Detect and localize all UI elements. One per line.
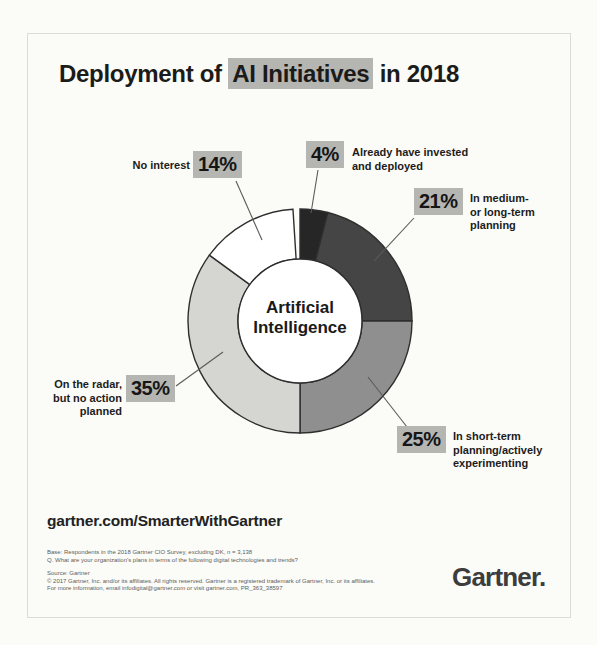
- pct-badge-deployed: 4%: [306, 141, 344, 168]
- leader-line-deployed: [311, 170, 318, 213]
- pct-badge-medium-term: 21%: [414, 188, 463, 215]
- pct-badge-short-term: 25%: [397, 426, 446, 453]
- callout-label-no-interest: No interest: [116, 159, 190, 173]
- callout-label-short-term: In short-term planning/actively experime…: [453, 430, 563, 471]
- footnote-source: Source: Gartner © 2017 Gartner, Inc. and…: [47, 570, 375, 593]
- gartner-logo: Gartner.: [452, 562, 545, 593]
- callout-label-deployed: Already have invested and deployed: [352, 146, 497, 173]
- pct-badge-radar: 35%: [126, 375, 175, 402]
- pct-badge-no-interest: 14%: [193, 151, 242, 178]
- callout-label-radar: On the radar, but no action planned: [46, 378, 122, 419]
- donut-center-label: Artificial Intelligence: [238, 298, 362, 338]
- footnote-base: Base: Respondents in the 2018 Gartner CI…: [47, 549, 298, 564]
- callout-label-medium-term: In medium- or long-term planning: [470, 192, 570, 233]
- footer-url: gartner.com/SmarterWithGartner: [47, 512, 282, 530]
- leader-line-medium-term: [374, 218, 414, 261]
- page: { "page": { "highlight_color": "#b5b5b2"…: [0, 0, 597, 645]
